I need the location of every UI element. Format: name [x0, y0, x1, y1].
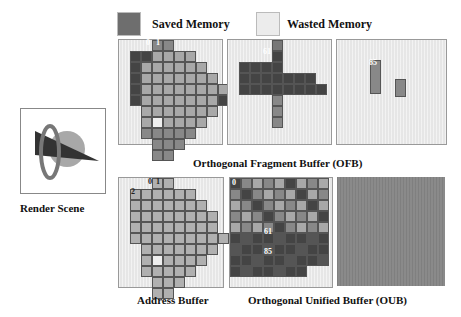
buffer-cell [141, 189, 152, 200]
buffer-cell [185, 62, 196, 73]
oub-label-85: 85 [264, 247, 272, 256]
ofb-caption: Orthogonal Fragment Buffer (OFB) [193, 157, 362, 169]
buffer-cell [283, 73, 294, 84]
render-scene-label: Render Scene [20, 202, 84, 214]
buffer-cell [174, 117, 185, 128]
buffer-cell [174, 51, 185, 62]
buffer-cell [141, 266, 152, 277]
buffer-cell [152, 244, 163, 255]
buffer-cell [141, 211, 152, 222]
buffer-cell [305, 73, 316, 84]
buffer-cell [274, 211, 285, 222]
buffer-cell [185, 95, 196, 106]
buffer-cell [252, 255, 263, 266]
buffer-cell [163, 266, 174, 277]
buffer-cell [252, 189, 263, 200]
buffer-cell [285, 178, 296, 189]
buffer-cell [318, 189, 329, 200]
buffer-cell [272, 73, 283, 84]
buffer-cell [230, 255, 241, 266]
buffer-cell [185, 255, 196, 266]
buffer-cell [239, 73, 250, 84]
buffer-cell [241, 244, 252, 255]
buffer-cell [305, 84, 316, 95]
buffer-cell [163, 178, 174, 189]
buffer-cell [218, 233, 229, 244]
buffer-cell [296, 211, 307, 222]
buffer-cell [185, 266, 196, 277]
wasted-memory-swatch [256, 12, 280, 36]
buffer-cell [141, 200, 152, 211]
buffer-cell [174, 106, 185, 117]
buffer-cell [296, 266, 307, 277]
buffer-cell [141, 95, 152, 106]
buffer-cell [307, 189, 318, 200]
buffer-cell [252, 178, 263, 189]
buffer-cell [296, 189, 307, 200]
buffer-cell [252, 233, 263, 244]
buffer-cell [252, 266, 263, 277]
buffer-cell [152, 266, 163, 277]
buffer-cell [152, 106, 163, 117]
buffer-cell [185, 200, 196, 211]
buffer-cell [141, 62, 152, 73]
buffer-cell [152, 95, 163, 106]
buffer-cell [296, 200, 307, 211]
buffer-cell [241, 178, 252, 189]
oub-caption: Orthogonal Unified Buffer (OUB) [248, 294, 407, 306]
buffer-cell [274, 189, 285, 200]
buffer-cell [207, 106, 218, 117]
buffer-cell [130, 95, 141, 106]
buffer-cell [163, 211, 174, 222]
buffer-cell [174, 139, 185, 150]
buffer-cell [274, 178, 285, 189]
buffer-cell [230, 200, 241, 211]
buffer-cell [196, 233, 207, 244]
buffer-cell [174, 233, 185, 244]
buffer-cell [163, 255, 174, 266]
ofb-panel-3 [336, 39, 447, 145]
buffer-cell [207, 95, 218, 106]
buffer-cell [196, 62, 207, 73]
buffer-cell [285, 222, 296, 233]
buffer-cell [196, 244, 207, 255]
buffer-cell [296, 222, 307, 233]
buffer-cell [272, 40, 283, 51]
buffer-cell [130, 84, 141, 95]
buffer-cell [307, 211, 318, 222]
ofb-label-0: 0 [146, 38, 150, 47]
buffer-cell [263, 178, 274, 189]
buffer-cell [152, 233, 163, 244]
buffer-cell [274, 233, 285, 244]
buffer-cell [152, 277, 163, 288]
buffer-cell [185, 73, 196, 84]
render-scene-panel [20, 108, 106, 194]
buffer-cell [163, 84, 174, 95]
buffer-cell [185, 189, 196, 200]
buffer-cell [174, 266, 185, 277]
buffer-cell [241, 255, 252, 266]
buffer-cell [274, 244, 285, 255]
buffer-cell [261, 73, 272, 84]
buffer-cell [174, 211, 185, 222]
buffer-cell [261, 84, 272, 95]
buffer-cell [152, 62, 163, 73]
buffer-cell [185, 51, 196, 62]
buffer-cell [294, 84, 305, 95]
buffer-cell [152, 189, 163, 200]
buffer-cell [272, 106, 283, 117]
buffer-cell [185, 84, 196, 95]
buffer-cell [185, 117, 196, 128]
buffer-cell [163, 117, 174, 128]
buffer-cell [241, 189, 252, 200]
oub-panel [229, 177, 333, 288]
buffer-cell [252, 211, 263, 222]
buffer-cell [174, 277, 185, 288]
buffer-cell [163, 40, 174, 51]
buffer-cell [207, 84, 218, 95]
buffer-cell [296, 255, 307, 266]
buffer-cell [263, 189, 274, 200]
buffer-cell [174, 128, 185, 139]
buffer-cell [241, 222, 252, 233]
buffer-cell [141, 106, 152, 117]
